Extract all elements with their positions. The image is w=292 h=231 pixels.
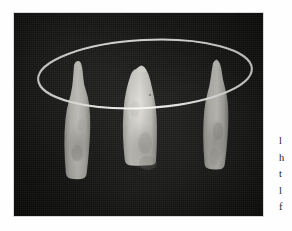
white-ellipse-annotation	[14, 13, 263, 216]
clipped-text-line: t	[279, 166, 292, 183]
clipped-text-line: h	[279, 150, 292, 167]
page-canvas: l h t l f	[0, 0, 292, 231]
clipped-text-line: f	[279, 199, 292, 216]
clipped-text-line: l	[279, 183, 292, 200]
figure-photograph	[14, 13, 263, 216]
clipped-text-line: l	[279, 133, 292, 150]
clipped-body-text-column: l h t l f	[279, 133, 292, 217]
